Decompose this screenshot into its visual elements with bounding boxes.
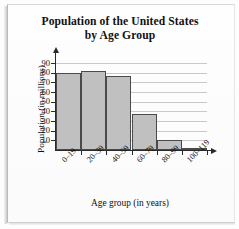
x-axis-tick: [182, 150, 183, 155]
bar-series: [56, 58, 207, 150]
bar: [132, 114, 157, 150]
y-axis-tick: [51, 140, 56, 141]
y-axis-tick: [51, 111, 56, 112]
y-axis-tick-label: 50: [28, 97, 50, 106]
bar: [106, 76, 131, 150]
x-axis-tick: [207, 150, 208, 155]
x-axis-title: Age group (in years): [45, 198, 215, 208]
y-axis-tick-label: 30: [28, 117, 50, 126]
x-axis-tick: [157, 150, 158, 155]
y-axis-tick-label: 70: [28, 78, 50, 87]
plot-area: [56, 58, 207, 150]
y-axis-tick: [51, 82, 56, 83]
y-axis-tick: [51, 102, 56, 103]
x-axis-line: [55, 150, 212, 151]
y-axis-tick: [51, 63, 56, 64]
y-axis-tick: [51, 73, 56, 74]
y-axis-tick-label: 20: [28, 126, 50, 135]
y-axis-tick-labels: 102030405060708090: [24, 0, 50, 229]
x-axis-tick: [132, 150, 133, 155]
y-axis-tick: [51, 92, 56, 93]
y-axis-tick-label: 90: [28, 59, 50, 68]
x-axis-tick: [81, 150, 82, 155]
chart-page: Population of the United States by Age G…: [0, 0, 239, 229]
y-axis-tick-label: 80: [28, 68, 50, 77]
y-axis-tick: [51, 121, 56, 122]
x-axis-tick: [106, 150, 107, 155]
y-axis-tick-label: 40: [28, 107, 50, 116]
y-axis-tick: [51, 131, 56, 132]
x-axis-arrow-icon: [211, 148, 217, 154]
y-axis-tick-label: 10: [28, 136, 50, 145]
y-axis-tick-label: 60: [28, 88, 50, 97]
bar: [56, 73, 81, 150]
y-axis-arrow-icon: [53, 47, 59, 53]
bar: [81, 71, 106, 150]
